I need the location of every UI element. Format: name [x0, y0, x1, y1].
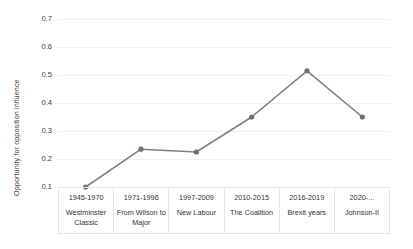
x-axis-cell-0: 1945-1970 Westminster Classic: [59, 188, 114, 233]
series-line-opportunity: [58, 19, 390, 187]
x-axis-range-2: 1997-2009: [179, 193, 214, 203]
y-tick-label-3: 0.4: [30, 98, 52, 107]
plot-area: [58, 19, 390, 187]
y-tick-label-5: 0.2: [30, 154, 52, 163]
x-axis-era-5: Johnson-II: [345, 208, 379, 219]
x-axis-range-1: 1971-1996: [124, 193, 159, 203]
x-axis-cell-2: 1997-2009 New Labour: [169, 188, 224, 233]
data-point-3: [249, 114, 254, 119]
data-point-1: [138, 146, 143, 151]
x-axis-cell-5: 2020-... Johnson-II: [335, 188, 389, 233]
y-tick-label-4: 0.3: [30, 126, 52, 135]
x-axis-range-0: 1945-1970: [69, 193, 104, 203]
x-axis-label-table: 1945-1970 Westminster Classic 1971-1996 …: [58, 187, 390, 234]
line-chart: Opportunity for opposition influence 0.7…: [0, 0, 413, 249]
x-axis-era-2: New Labour: [177, 208, 216, 219]
y-tick-label-0: 0.7: [30, 14, 52, 23]
data-point-4: [304, 68, 309, 73]
series-markers: [83, 68, 365, 189]
y-tick-label-1: 0.6: [30, 42, 52, 51]
data-point-5: [360, 114, 365, 119]
x-axis-range-3: 2010-2015: [234, 193, 269, 203]
x-axis-cell-1: 1971-1996 From Wilson to Major: [114, 188, 169, 233]
series-polyline: [86, 70, 363, 186]
x-axis-range-5: 2020-...: [350, 193, 375, 203]
x-axis-era-1: From Wilson to Major: [114, 208, 168, 229]
x-axis-cell-4: 2016-2019 Brexit years: [280, 188, 335, 233]
x-axis-era-4: Brexit years: [288, 208, 327, 219]
x-axis-era-3: The Coalition: [230, 208, 273, 219]
x-axis-cell-3: 2010-2015 The Coalition: [225, 188, 280, 233]
y-axis-title: Opportunity for opposition influence: [10, 0, 24, 196]
y-tick-label-2: 0.5: [30, 70, 52, 79]
x-axis-era-0: Westminster Classic: [59, 208, 113, 229]
data-point-2: [194, 149, 199, 154]
x-axis-range-4: 2016-2019: [289, 193, 324, 203]
y-tick-label-6: 0.1: [30, 182, 52, 191]
